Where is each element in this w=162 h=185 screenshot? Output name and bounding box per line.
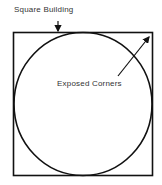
inscribed-circle <box>14 33 152 176</box>
building-diagram <box>0 0 162 185</box>
